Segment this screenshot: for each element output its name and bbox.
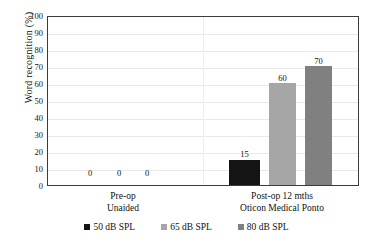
- bar-label-preop-65db: 0: [111, 169, 127, 178]
- legend-swatch-80db-icon: [238, 224, 244, 230]
- category-label-postop-line1: Post-op 12 mths: [212, 191, 352, 203]
- y-tick-50: 50: [19, 97, 43, 106]
- y-tick-90: 90: [19, 29, 43, 38]
- y-tick-30: 30: [19, 131, 43, 140]
- category-label-postop-line2: Oticon Medical Ponto: [212, 203, 352, 215]
- bar-label-postop-80db: 70: [305, 57, 332, 66]
- legend-item-50db[interactable]: 50 dB SPL: [84, 222, 135, 232]
- category-separator-gridline: [203, 17, 204, 185]
- bar-postop-65db: [269, 83, 296, 185]
- bar-postop-80db: [305, 66, 332, 185]
- y-tick-0: 0: [19, 182, 43, 191]
- y-tick-60: 60: [19, 80, 43, 89]
- legend-label-80db: 80 dB SPL: [247, 222, 289, 232]
- y-tick-10: 10: [19, 165, 43, 174]
- y-axis-tick-labels: 100 90 80 70 60 50 40 30 20 10 0: [14, 16, 43, 186]
- legend-swatch-65db-icon: [161, 224, 167, 230]
- y-tick-100: 100: [19, 12, 43, 21]
- category-label-postop: Post-op 12 mths Oticon Medical Ponto: [212, 191, 352, 214]
- y-tick-40: 40: [19, 114, 43, 123]
- legend-label-65db: 65 dB SPL: [170, 222, 212, 232]
- y-tick-20: 20: [19, 148, 43, 157]
- bar-chart: Word recognition (%) 100 90 80 70 60 50 …: [0, 0, 373, 247]
- bar-postop-50db: [229, 160, 260, 186]
- legend-label-50db: 50 dB SPL: [93, 222, 135, 232]
- category-label-preop: Pre-op Unaided: [63, 191, 183, 214]
- category-label-preop-line1: Pre-op: [63, 191, 183, 203]
- legend-swatch-50db-icon: [84, 224, 90, 230]
- plot-inner: 0 0 0 15 60 70: [48, 17, 358, 185]
- y-tick-70: 70: [19, 63, 43, 72]
- chart-legend: 50 dB SPL 65 dB SPL 80 dB SPL: [0, 222, 373, 232]
- bar-label-preop-80db: 0: [139, 169, 155, 178]
- legend-item-80db[interactable]: 80 dB SPL: [238, 222, 289, 232]
- category-label-preop-line2: Unaided: [63, 203, 183, 215]
- plot-area: 0 0 0 15 60 70: [47, 16, 359, 186]
- y-tick-80: 80: [19, 46, 43, 55]
- bar-label-postop-50db: 15: [229, 150, 260, 159]
- legend-item-65db[interactable]: 65 dB SPL: [161, 222, 212, 232]
- bar-label-preop-50db: 0: [82, 169, 98, 178]
- bar-label-postop-65db: 60: [269, 74, 296, 83]
